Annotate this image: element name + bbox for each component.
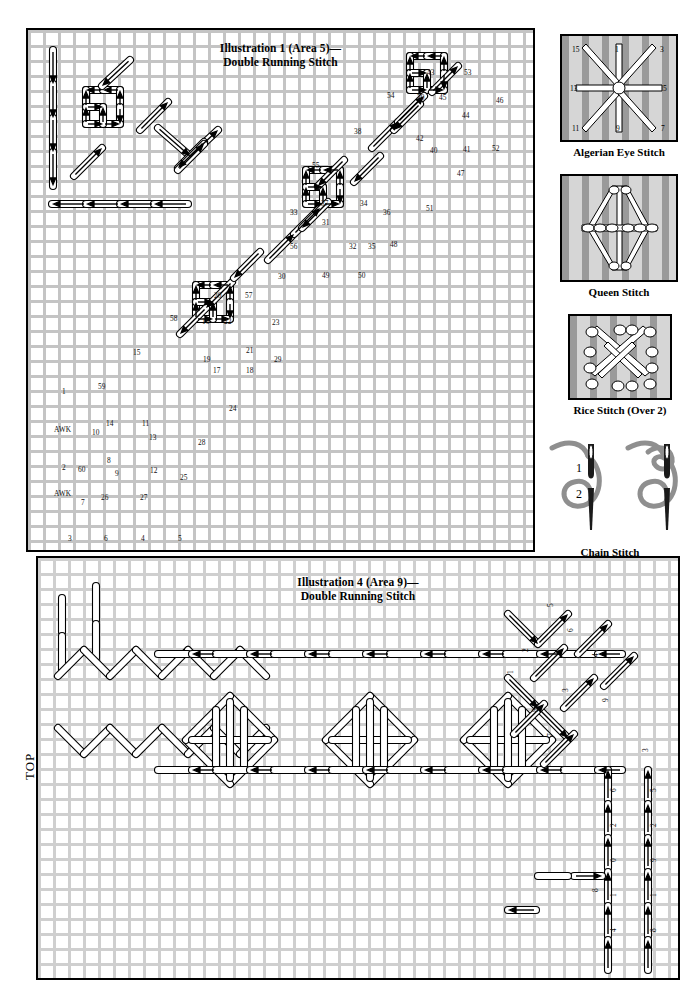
stitch-number: AWK bbox=[54, 490, 71, 497]
sidebar-algerian-eye: 15 1 3 13 5 11 9 7 Algerian Eye Stitch bbox=[560, 34, 678, 158]
stitch-number: 36 bbox=[383, 209, 390, 216]
illustration-4-title-line2: Double Running Stitch bbox=[38, 590, 678, 604]
illustration-1-title-line2: Double Running Stitch bbox=[28, 56, 533, 70]
illustration-1-stitches bbox=[28, 30, 533, 550]
stitch-number: 6 bbox=[610, 788, 617, 792]
stitch-number: 5 bbox=[178, 535, 182, 542]
stitch-number: 29 bbox=[274, 356, 281, 363]
stitch-number: 41 bbox=[463, 146, 470, 153]
stitch-number: 3 bbox=[660, 45, 664, 54]
stitch-number: 14 bbox=[106, 420, 113, 427]
stitch-number: 22 bbox=[224, 318, 231, 325]
stitch-number: 57 bbox=[245, 292, 252, 299]
stitch-number: 13 bbox=[570, 84, 578, 93]
stitch-number: 15 bbox=[572, 45, 580, 54]
illustration-1-title-line1: Illustration 1 (Area 5)— bbox=[28, 42, 533, 56]
illustration-4-panel: Illustration 4 (Area 9)— Double Running … bbox=[36, 556, 680, 980]
chain-stitch-number-1: 1 bbox=[576, 461, 582, 475]
stitch-number: 8 bbox=[107, 457, 111, 464]
stitch-number: AWK bbox=[54, 426, 71, 433]
stitch-number: 4 bbox=[592, 653, 599, 657]
stitch-number: 7 bbox=[661, 124, 665, 133]
stitch-number: 11 bbox=[572, 124, 579, 133]
stitch-number: 45 bbox=[439, 94, 446, 101]
stitch-number: 19 bbox=[203, 356, 210, 363]
stitch-number: 1 bbox=[507, 670, 514, 674]
stitch-number: 31 bbox=[322, 219, 329, 226]
illustration-1-panel: Illustration 1 (Area 5)— Double Running … bbox=[26, 28, 535, 552]
stitch-number: 7 bbox=[81, 499, 85, 506]
sidebar-queen-stitch: Queen Stitch bbox=[560, 174, 678, 298]
stitch-number: 2 bbox=[610, 823, 617, 827]
stitch-number: 8 bbox=[532, 708, 539, 712]
stitch-number: 51 bbox=[426, 205, 433, 212]
illustration-4-title-line1: Illustration 4 (Area 9)— bbox=[38, 576, 678, 590]
chain-stitch-diagram: 1 2 bbox=[536, 430, 684, 542]
stitch-number: 8 bbox=[650, 928, 657, 932]
stitch-number: 16 bbox=[202, 318, 209, 325]
stitch-number: 32 bbox=[349, 243, 356, 250]
stitch-number: 26 bbox=[101, 494, 108, 501]
stitch-number: 18 bbox=[246, 367, 253, 374]
stitch-number: 9 bbox=[650, 858, 657, 862]
stitch-number: 35 bbox=[368, 243, 375, 250]
stitch-number: 13 bbox=[149, 434, 156, 441]
stitch-number: 12 bbox=[150, 467, 157, 474]
stitch-number: 1 bbox=[62, 388, 66, 395]
illustration-1-title: Illustration 1 (Area 5)— Double Running … bbox=[28, 42, 533, 69]
stitch-number: 2 bbox=[650, 823, 657, 827]
stitch-number: 27 bbox=[140, 494, 147, 501]
stitch-number: 59 bbox=[98, 383, 105, 390]
stitch-number: 2 bbox=[522, 648, 529, 652]
stitch-number: 1 bbox=[615, 45, 619, 54]
stitch-number: 20 bbox=[214, 292, 221, 299]
stitch-number: 4 bbox=[610, 928, 617, 932]
stitch-number: 50 bbox=[358, 272, 365, 279]
stitch-number: 23 bbox=[272, 319, 279, 326]
stitch-number: 2 bbox=[62, 464, 66, 471]
illustration-4-title: Illustration 4 (Area 9)— Double Running … bbox=[38, 576, 678, 603]
stitch-number: 0 bbox=[610, 858, 617, 862]
stitch-number: 49 bbox=[322, 272, 329, 279]
stitch-number: 8 bbox=[592, 888, 599, 892]
stitch-number: 10 bbox=[92, 429, 99, 436]
illustration-4-stitches bbox=[38, 558, 678, 978]
chain-stitch-caption: Chain Stitch bbox=[536, 546, 684, 558]
algerian-eye-caption: Algerian Eye Stitch bbox=[560, 146, 678, 158]
stitch-number: 21 bbox=[246, 347, 253, 354]
top-orientation-label: TOP bbox=[22, 753, 38, 780]
stitch-number: 4 bbox=[141, 535, 145, 542]
algerian-eye-diagram: 15 1 3 13 5 11 9 7 bbox=[560, 34, 678, 142]
stitch-number: 9 bbox=[616, 124, 620, 133]
stitch-number: 6 bbox=[104, 535, 108, 542]
stitch-number: 34 bbox=[360, 200, 367, 207]
stitch-number: 25 bbox=[180, 474, 187, 481]
sidebar-chain-stitch: 1 2 Chain Stitch bbox=[536, 430, 684, 558]
queen-stitch-diagram bbox=[560, 174, 678, 282]
stitch-number: 48 bbox=[390, 241, 397, 248]
chain-stitch-number-2: 2 bbox=[576, 487, 582, 501]
stitch-number: 3 bbox=[562, 688, 569, 692]
stitch-number: 38 bbox=[354, 128, 361, 135]
stitch-number: 15 bbox=[133, 349, 140, 356]
stitch-number: 39 bbox=[417, 94, 424, 101]
stitch-number: 56 bbox=[290, 243, 297, 250]
stitch-number: 33 bbox=[290, 209, 297, 216]
sidebar-rice-stitch: Rice Stitch (Over 2) bbox=[568, 314, 672, 416]
stitch-number: 52 bbox=[492, 145, 499, 152]
stitch-number: 55 bbox=[312, 162, 319, 169]
stitch-number: 46 bbox=[496, 97, 503, 104]
rice-stitch-threads bbox=[570, 316, 670, 398]
stitch-number: 40 bbox=[430, 147, 437, 154]
stitch-number: 17 bbox=[213, 367, 220, 374]
stitch-number: 1 bbox=[650, 893, 657, 897]
stitch-number: 28 bbox=[198, 439, 205, 446]
stitch-number: 11 bbox=[142, 420, 149, 427]
stitch-number: 37 bbox=[321, 200, 328, 207]
rice-stitch-caption: Rice Stitch (Over 2) bbox=[568, 404, 672, 416]
stitch-number: 30 bbox=[278, 273, 285, 280]
stitch-number: 3 bbox=[642, 748, 649, 752]
stitch-number: 47 bbox=[457, 170, 464, 177]
stitch-number: 53 bbox=[464, 69, 471, 76]
stitch-number: 9 bbox=[115, 470, 119, 477]
